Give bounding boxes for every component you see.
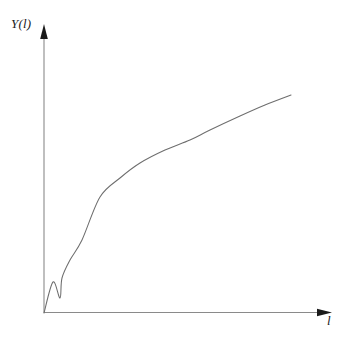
- y-axis-label: Y(l): [11, 16, 31, 32]
- figure-container: Y(l) l: [0, 0, 346, 338]
- up-arrowhead-icon: [40, 24, 48, 39]
- graph-canvas: [0, 0, 346, 338]
- x-axis-label: l: [327, 313, 331, 329]
- production-function-curve: [44, 95, 291, 313]
